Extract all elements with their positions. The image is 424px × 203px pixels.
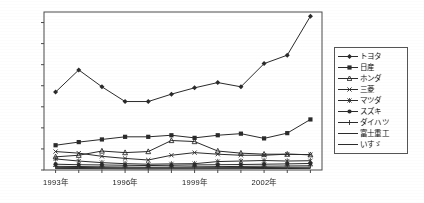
legend-marker-icon bbox=[338, 63, 358, 72]
data-point-marker bbox=[347, 65, 351, 69]
data-point-marker bbox=[347, 98, 351, 103]
legend-label: 日産 bbox=[360, 63, 374, 72]
legend-marker-icon bbox=[338, 129, 358, 138]
legend-marker-icon bbox=[338, 96, 358, 105]
legend-label: 三菱 bbox=[360, 85, 374, 94]
legend-marker-icon bbox=[338, 140, 358, 149]
legend-marker-icon bbox=[338, 107, 358, 116]
data-point-marker bbox=[347, 54, 352, 59]
data-point-marker bbox=[53, 143, 57, 147]
data-point-marker bbox=[169, 133, 173, 137]
legend-label: スズキ bbox=[360, 107, 382, 116]
legend-item-2[interactable]: 日産 bbox=[337, 62, 405, 73]
x-tick-label: 1999年 bbox=[182, 176, 207, 187]
y-axis-label-group: 0200400600800100012001400 bbox=[0, 0, 36, 203]
data-point-marker bbox=[123, 135, 127, 139]
line-chart-figure: 0200400600800100012001400 1993年1996年1999… bbox=[0, 0, 424, 203]
series-line bbox=[56, 167, 311, 168]
legend-item-5[interactable]: マツダ bbox=[337, 95, 405, 106]
data-point-marker bbox=[285, 131, 289, 135]
legend-item-3[interactable]: ホンダ bbox=[337, 73, 405, 84]
chart-legend: トヨタ日産ホンダ三菱マツダスズキダイハツ富士重工いすゞ bbox=[334, 47, 408, 154]
data-point-marker bbox=[77, 140, 81, 144]
x-tick-label: 1993年 bbox=[43, 176, 68, 187]
legend-item-1[interactable]: トヨタ bbox=[337, 51, 405, 62]
series-8 bbox=[56, 167, 311, 168]
legend-label: ダイハツ bbox=[360, 118, 389, 127]
legend-item-4[interactable]: 三菱 bbox=[337, 84, 405, 95]
data-point-marker bbox=[100, 137, 104, 141]
legend-item-7[interactable]: ダイハツ bbox=[337, 117, 405, 128]
legend-marker-icon bbox=[338, 74, 358, 83]
data-point-marker bbox=[347, 120, 352, 125]
legend-label: いすゞ bbox=[360, 140, 382, 149]
legend-item-8[interactable]: 富士重工 bbox=[337, 128, 405, 139]
data-point-marker bbox=[146, 135, 150, 139]
data-point-marker bbox=[239, 132, 243, 136]
data-point-marker bbox=[347, 87, 351, 91]
legend-label: マツダ bbox=[360, 96, 382, 105]
legend-label: ホンダ bbox=[360, 74, 382, 83]
data-point-marker bbox=[347, 76, 352, 81]
data-point-marker bbox=[216, 133, 220, 137]
x-tick-label: 1996年 bbox=[112, 176, 137, 187]
legend-marker-icon bbox=[338, 85, 358, 94]
legend-label: トヨタ bbox=[360, 52, 382, 61]
data-point-marker bbox=[308, 117, 312, 121]
legend-label: 富士重工 bbox=[360, 129, 389, 138]
data-point-marker bbox=[347, 109, 351, 113]
legend-marker-icon bbox=[338, 52, 358, 61]
legend-item-6[interactable]: スズキ bbox=[337, 106, 405, 117]
legend-item-9[interactable]: いすゞ bbox=[337, 139, 405, 150]
x-tick-label: 2002年 bbox=[251, 176, 276, 187]
legend-marker-icon bbox=[338, 118, 358, 127]
data-point-marker bbox=[262, 136, 266, 140]
